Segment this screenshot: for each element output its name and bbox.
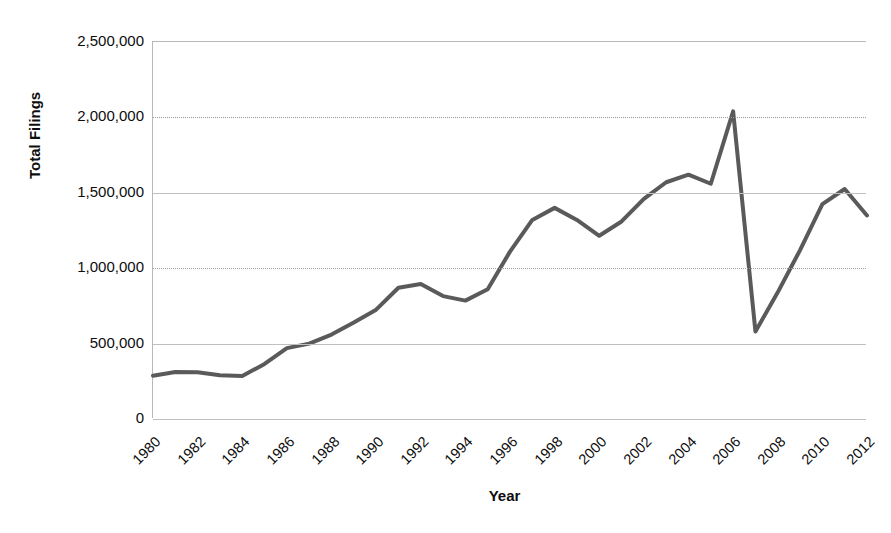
x-tick-label: 1996 — [482, 434, 521, 473]
x-tick-label: 2002 — [615, 434, 654, 473]
x-tick-label: 2006 — [705, 434, 744, 473]
x-tick-label: 2000 — [571, 434, 610, 473]
x-axis-title: Year — [489, 487, 521, 504]
y-tick-label: 0 — [60, 410, 144, 425]
bankruptcy-filings-line-chart: Total Filings 2,500,0002,000,0001,500,00… — [0, 0, 891, 533]
x-tick-label: 1992 — [392, 434, 431, 473]
total-filings-line — [153, 111, 867, 376]
x-tick-label: 1982 — [169, 434, 208, 473]
gridline — [153, 344, 866, 345]
gridline — [153, 117, 866, 118]
plot-area — [152, 41, 866, 418]
x-tick-label: 2004 — [660, 434, 699, 473]
x-tick-label: 1994 — [437, 434, 476, 473]
x-tick-label: 1998 — [526, 434, 565, 473]
y-tick-label: 1,000,000 — [60, 259, 144, 274]
x-axis-title-wrap: Year — [0, 487, 891, 504]
y-tick-label: 2,000,000 — [60, 108, 144, 123]
y-axis-title: Total Filings — [26, 19, 50, 179]
y-tick-label: 1,500,000 — [60, 184, 144, 199]
data-line-svg — [153, 42, 867, 419]
x-axis-tick-labels: 1980198219841986198819901992199419961998… — [152, 418, 866, 488]
x-tick-label: 1988 — [303, 434, 342, 473]
gridline — [153, 268, 866, 269]
gridline — [153, 193, 866, 194]
y-tick-label: 500,000 — [60, 335, 144, 350]
y-tick-label: 2,500,000 — [60, 33, 144, 48]
x-tick-label: 2008 — [749, 434, 788, 473]
x-tick-label: 1984 — [214, 434, 253, 473]
x-tick-label: 1986 — [258, 434, 297, 473]
x-tick-label: 2012 — [839, 434, 878, 473]
x-tick-label: 1990 — [348, 434, 387, 473]
x-tick-label: 2010 — [794, 434, 833, 473]
